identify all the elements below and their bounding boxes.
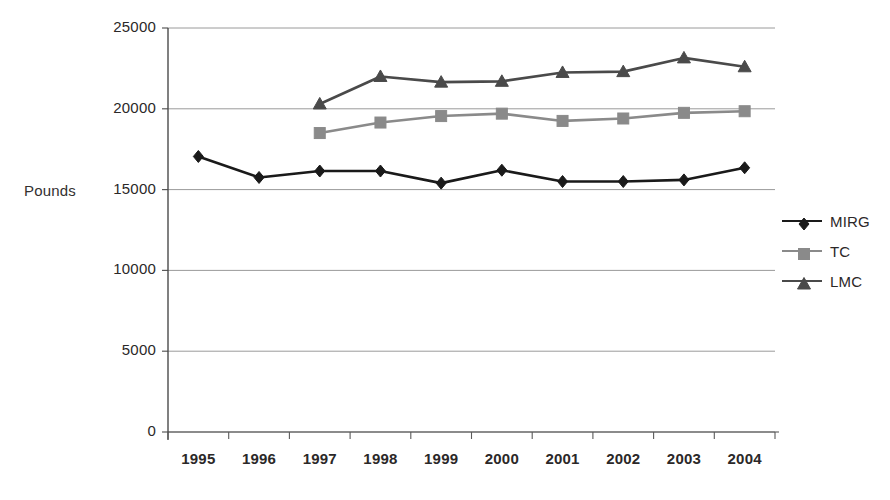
series-LMC <box>313 51 751 109</box>
data-point-diamond <box>193 150 203 162</box>
data-point-triangle <box>798 278 811 290</box>
x-tick-label: 1998 <box>349 450 411 467</box>
x-tick-label: 1997 <box>289 450 351 467</box>
series-line <box>198 156 744 183</box>
data-point-diamond <box>679 174 689 186</box>
y-tick-label: 20000 <box>90 99 156 116</box>
legend-label: LMC <box>830 273 862 290</box>
legend-marker-square-icon <box>782 243 822 259</box>
x-tick-label: 2004 <box>714 450 776 467</box>
legend-marker-diamond-icon <box>782 213 822 229</box>
data-point-square <box>618 113 629 124</box>
legend-label: MIRG <box>830 213 870 230</box>
series-MIRG <box>193 150 749 189</box>
x-tick-label: 1996 <box>228 450 290 467</box>
y-tick-label: 10000 <box>90 260 156 277</box>
data-point-square <box>496 108 507 119</box>
legend-item-LMC[interactable]: LMC <box>782 266 886 296</box>
data-point-diamond <box>558 176 568 188</box>
x-tick-label: 1995 <box>167 450 229 467</box>
data-point-diamond <box>254 171 264 183</box>
data-point-triangle <box>677 51 690 63</box>
line-chart: Pounds 0500010000150002000025000 1995199… <box>0 0 890 500</box>
data-point-diamond <box>618 176 628 188</box>
x-tick-label: 2003 <box>653 450 715 467</box>
x-tick-label: 1999 <box>410 450 472 467</box>
x-tick-label: 2001 <box>532 450 594 467</box>
legend-marker-triangle-icon <box>782 273 822 289</box>
data-point-diamond <box>315 165 325 177</box>
chart-legend: MIRGTCLMC <box>782 206 886 296</box>
x-tick-label: 2002 <box>592 450 654 467</box>
data-point-square <box>678 107 689 118</box>
y-tick-label: 15000 <box>90 180 156 197</box>
y-tick-label: 25000 <box>90 18 156 35</box>
data-point-diamond <box>799 218 809 230</box>
data-point-diamond <box>375 165 385 177</box>
series-TC <box>314 106 750 139</box>
legend-item-MIRG[interactable]: MIRG <box>782 206 886 236</box>
data-point-diamond <box>436 177 446 189</box>
data-point-square <box>436 111 447 122</box>
data-point-square <box>799 249 810 260</box>
data-point-diamond <box>497 164 507 176</box>
data-point-square <box>375 117 386 128</box>
x-tick-label: 2000 <box>471 450 533 467</box>
legend-item-TC[interactable]: TC <box>782 236 886 266</box>
data-point-diamond <box>740 162 750 174</box>
data-point-square <box>739 106 750 117</box>
y-tick-label: 5000 <box>90 341 156 358</box>
y-tick-label: 0 <box>90 422 156 439</box>
data-point-square <box>557 115 568 126</box>
legend-label: TC <box>830 243 850 260</box>
data-point-square <box>314 128 325 139</box>
